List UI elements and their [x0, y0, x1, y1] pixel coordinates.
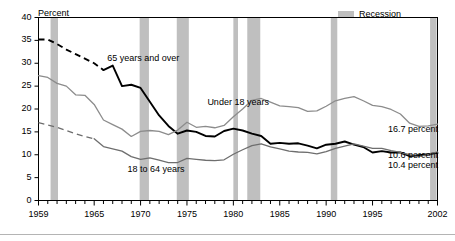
- recession-band: [331, 18, 337, 201]
- x-axis-tick-label: 2002: [418, 209, 455, 219]
- x-axis-tick-label: 1980: [213, 209, 253, 219]
- series-line-dashed: [39, 39, 104, 70]
- x-axis-tick-label: 1959: [19, 209, 59, 219]
- y-axis-tick-label: 35: [10, 34, 32, 44]
- y-axis-tick-label: 25: [10, 80, 32, 90]
- y-axis-title: Percent: [38, 8, 69, 18]
- series-end-value-label: 16.7 percent: [388, 124, 438, 134]
- series-end-value-label: 10.4 percent: [388, 160, 438, 170]
- legend-label-recession: Recession: [359, 9, 401, 19]
- series-end-value-label: 10.6 percent: [388, 150, 438, 160]
- x-axis-tick-label: 1975: [167, 209, 207, 219]
- y-axis-tick-label: 15: [10, 126, 32, 136]
- x-axis-tick-label: 1965: [74, 209, 114, 219]
- x-axis-ticks: [39, 201, 438, 206]
- series-label: 18 to 64 years: [128, 164, 185, 174]
- poverty-rate-line-chart: Percent Recession 0510152025303540195919…: [0, 0, 455, 241]
- series-label: 65 years and over: [107, 53, 179, 63]
- x-axis-tick-label: 1995: [353, 209, 393, 219]
- x-axis-tick-label: 1990: [306, 209, 346, 219]
- y-axis-tick-label: 10: [10, 149, 32, 159]
- recession-band: [430, 18, 436, 201]
- y-axis-tick-label: 20: [10, 103, 32, 113]
- recession-band: [233, 18, 238, 201]
- series-line: [103, 66, 437, 157]
- chart-canvas: [0, 0, 455, 241]
- y-axis-ticks: [35, 18, 39, 201]
- recession-band: [247, 18, 260, 201]
- series-line-dashed: [39, 123, 95, 139]
- series-label: Under 18 years: [207, 97, 269, 107]
- x-axis-tick-label: 1985: [260, 209, 300, 219]
- recession-band: [51, 18, 58, 201]
- y-axis-tick-label: 30: [10, 57, 32, 67]
- x-axis-tick-label: 1970: [121, 209, 161, 219]
- y-axis-tick-label: 5: [10, 172, 32, 182]
- legend-swatch-recession: [338, 11, 354, 18]
- y-axis-tick-label: 0: [10, 195, 32, 205]
- y-axis-tick-label: 40: [10, 12, 32, 22]
- footer-divider: [0, 234, 455, 241]
